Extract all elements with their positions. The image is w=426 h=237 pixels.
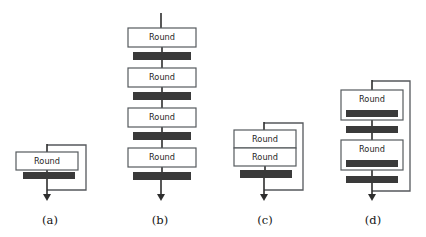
black-bar	[133, 52, 191, 60]
subfigure-caption-b: (b)	[152, 213, 168, 227]
black-bar	[346, 176, 398, 183]
figure-container: Round(a)RoundRoundRoundRound(b)RoundRoun…	[0, 0, 426, 237]
subfigure-caption-d: (d)	[365, 213, 381, 227]
output-arrowhead-c	[260, 194, 268, 201]
subfigure-caption-c: (c)	[257, 213, 272, 227]
inner-black-bar	[346, 160, 398, 167]
round-box-label: Round	[359, 94, 385, 104]
black-bar	[23, 172, 75, 179]
output-arrowhead-d	[368, 194, 376, 201]
subfigure-b: RoundRoundRoundRound(b)	[128, 13, 196, 227]
black-bar	[133, 92, 191, 100]
round-box-label: Round	[252, 134, 278, 144]
subfigure-c: RoundRound(c)	[234, 122, 303, 227]
black-bar	[133, 172, 191, 180]
round-box-label: Round	[252, 152, 278, 162]
subfigure-d: RoundRound(d)	[341, 80, 410, 227]
subfigure-a: Round(a)	[16, 144, 86, 227]
round-box-label: Round	[149, 152, 175, 162]
output-arrowhead-a	[43, 194, 51, 201]
inner-black-bar	[346, 110, 398, 117]
black-bar	[133, 132, 191, 140]
round-box-label: Round	[149, 32, 175, 42]
block-diagram-svg: Round(a)RoundRoundRoundRound(b)RoundRoun…	[0, 0, 426, 237]
output-arrowhead-b	[157, 194, 165, 201]
round-box-label: Round	[34, 156, 60, 166]
subfigure-caption-a: (a)	[42, 213, 58, 227]
round-box-label: Round	[149, 72, 175, 82]
black-bar	[346, 126, 398, 133]
round-box-label: Round	[149, 112, 175, 122]
round-box-label: Round	[359, 144, 385, 154]
black-bar	[240, 170, 292, 178]
